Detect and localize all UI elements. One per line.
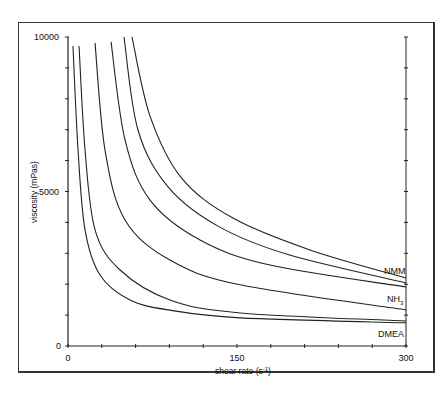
x-tick-300: 300: [398, 353, 413, 363]
viscosity-chart: 10000 5000 0 0 150 300 viscosity (mPas) …: [0, 0, 442, 402]
label-dmea: DMEA: [378, 329, 404, 339]
label-nmm: NMM: [384, 266, 406, 276]
x-tick-0: 0: [65, 353, 70, 363]
curve-dmea-a: [73, 46, 406, 323]
curve-nmm-a: [124, 37, 406, 283]
x-tick-150: 150: [229, 353, 244, 363]
x-axis-title: shear rate (s-1): [215, 366, 271, 376]
curve-nmm-b: [132, 37, 406, 278]
y-tick-5000: 5000: [39, 187, 59, 197]
label-nh3: NH3: [387, 294, 404, 306]
curves: [73, 37, 406, 323]
y-tick-10000: 10000: [34, 32, 59, 42]
curve-nh3-b: [111, 42, 406, 287]
y-axis-title: viscosity (mPas): [29, 161, 39, 223]
y-tick-0: 0: [56, 341, 61, 351]
